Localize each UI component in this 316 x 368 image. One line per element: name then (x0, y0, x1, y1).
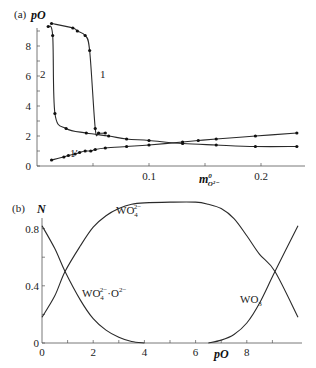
data-point (50, 158, 53, 161)
species-label-wo4: WO42− (116, 203, 141, 219)
panel-b-x-axis-title: pO (213, 347, 229, 361)
data-point (295, 131, 298, 134)
x-tick-label: 2 (90, 346, 96, 358)
data-point (125, 145, 128, 148)
data-point (47, 25, 50, 28)
species-curve-2 (208, 226, 298, 343)
data-point (295, 145, 298, 148)
data-point (85, 131, 88, 134)
data-point (94, 127, 97, 130)
wo4-sub: 4 (134, 211, 138, 219)
panel-b-chart: (b) N 00.40.802468 WO42− WO42−·O2− WO3 p… (12, 202, 302, 361)
data-point (147, 139, 150, 142)
data-point (84, 34, 87, 37)
data-point (76, 29, 79, 32)
curve-label-1-prime: 1′ (70, 147, 78, 159)
data-point (104, 146, 107, 149)
data-point (181, 140, 184, 143)
panel-a-y-axis-title: pO (30, 8, 46, 22)
wo4o-suffix: ·O (107, 287, 119, 299)
species-curve-1 (42, 226, 144, 343)
data-point (197, 139, 200, 142)
species-label-wo3: WO3 (240, 293, 262, 308)
x-tick-label: 0 (39, 346, 45, 358)
y-tick-label: 2 (26, 130, 32, 142)
data-point (78, 151, 81, 154)
x-tick-label: 8 (244, 346, 250, 358)
panel-a-axes: 024680.10.2 (26, 28, 316, 182)
wo4-sup: 2− (134, 203, 142, 211)
x-axis-title-sup: 0 (208, 172, 212, 180)
data-point (125, 137, 128, 140)
data-point (254, 134, 257, 137)
data-point (215, 137, 218, 140)
y-tick-label: 0 (26, 160, 32, 172)
series-line-1 (52, 24, 106, 136)
data-point (84, 149, 87, 152)
data-point (50, 22, 53, 25)
data-point (94, 148, 97, 151)
curve-label-1: 1 (100, 68, 106, 80)
x-tick-label: 0.2 (254, 170, 268, 182)
y-tick-label: 6 (26, 70, 32, 82)
data-point (147, 143, 150, 146)
wo3-main: WO (240, 293, 258, 305)
y-tick-label: 8 (26, 40, 32, 52)
panel-b-label: (b) (12, 202, 25, 215)
species-label-wo4-o: WO42−·O2− (82, 286, 126, 302)
data-point (62, 155, 65, 158)
wo4o-main: WO (82, 287, 100, 299)
data-point (89, 149, 92, 152)
data-point (215, 143, 218, 146)
panel-b-axes: 00.40.802468 (25, 218, 302, 358)
x-axis-title-sub: O²⁻ (208, 180, 220, 188)
panel-a-label: (a) (14, 8, 27, 21)
wo4o-sup: 2− (100, 286, 108, 294)
y-tick-label: 4 (26, 100, 32, 112)
panel-a-x-axis-title: m0O²⁻ (199, 172, 220, 188)
wo4o-sub: 4 (100, 294, 104, 302)
x-tick-label: 0.1 (142, 170, 156, 182)
wo3-sub: 3 (258, 300, 262, 308)
data-point (51, 34, 54, 37)
data-point (107, 134, 110, 137)
series-line-2 (48, 26, 297, 147)
panel-a-chart: (a) pO 024680.10.2 2 1 1′ m0O²⁻ (14, 8, 315, 188)
data-point (97, 131, 100, 134)
panel-a-series (47, 22, 299, 162)
data-point (65, 127, 68, 130)
wo4-main: WO (116, 204, 134, 216)
data-point (53, 112, 56, 115)
data-point (104, 131, 107, 134)
panel-b-y-axis-title: N (36, 202, 47, 216)
panel-b-series (42, 202, 298, 343)
data-point (254, 145, 257, 148)
data-point (71, 26, 74, 29)
y-tick-label: 0.8 (25, 223, 39, 235)
curve-label-2: 2 (40, 68, 46, 80)
x-tick-label: 4 (142, 346, 148, 358)
figure-canvas: (a) pO 024680.10.2 2 1 1′ m0O²⁻ (b) N 00… (0, 0, 315, 368)
y-tick-label: 0.4 (25, 280, 39, 292)
wo4o-suffix-sup: 2− (119, 286, 127, 294)
x-tick-label: 6 (193, 346, 199, 358)
data-point (88, 49, 91, 52)
